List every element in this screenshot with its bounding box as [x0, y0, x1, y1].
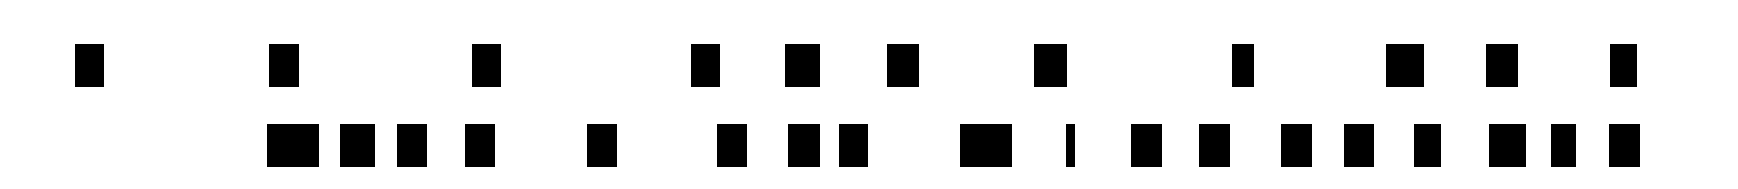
redaction-block	[1610, 44, 1637, 87]
redaction-block	[788, 124, 820, 167]
redaction-block	[1131, 124, 1162, 167]
redaction-block	[267, 124, 319, 167]
redaction-block	[1199, 124, 1230, 167]
redaction-block	[397, 124, 427, 167]
bottom-row	[0, 124, 1738, 167]
redaction-block	[1551, 124, 1576, 167]
redaction-block	[1034, 44, 1067, 87]
redaction-block	[472, 44, 501, 87]
top-row	[0, 44, 1738, 87]
redaction-block	[960, 124, 1012, 167]
redaction-block	[1609, 124, 1640, 167]
redaction-block	[465, 124, 495, 167]
redaction-block	[785, 44, 820, 87]
redaction-block	[1486, 44, 1518, 87]
redaction-block	[1386, 44, 1424, 87]
redaction-block	[1489, 124, 1526, 167]
redaction-block	[269, 44, 299, 87]
redaction-block	[1281, 124, 1312, 167]
redaction-block	[839, 124, 868, 167]
redaction-block	[1414, 124, 1441, 167]
redaction-block	[691, 44, 720, 87]
redaction-block	[1344, 124, 1374, 167]
redaction-block	[75, 44, 104, 87]
redaction-block	[717, 124, 747, 167]
redaction-block	[340, 124, 375, 167]
redaction-block	[1066, 124, 1075, 167]
redaction-block	[587, 124, 617, 167]
redaction-block	[1232, 44, 1254, 87]
redaction-block	[887, 44, 919, 87]
